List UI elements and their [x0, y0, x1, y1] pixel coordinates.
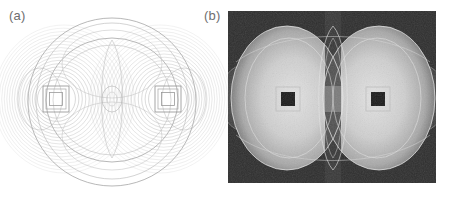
contour-core-ellipse-2: [107, 92, 117, 106]
contour-rings-right: [90, 25, 230, 173]
contour-ring: [138, 70, 194, 128]
contour-ring: [20, 57, 100, 141]
contour-ring: [30, 70, 86, 128]
contour-ring: [90, 25, 230, 173]
contour-ring: [12, 48, 110, 151]
figure-container: (a) (b): [0, 0, 452, 197]
contour-ring: [0, 31, 127, 166]
panel-b-grain: [228, 11, 436, 183]
contour-ring: [114, 48, 212, 151]
panel-b-intensity-map: [220, 11, 446, 183]
contour-ring: [145, 77, 189, 122]
contour-ring: [97, 31, 225, 166]
figure-canvas: [0, 0, 452, 197]
panel-a-label: (a): [9, 9, 26, 22]
contour-core-ellipse: [102, 86, 122, 112]
contour-ring: [32, 73, 82, 124]
contour-ring: [124, 57, 204, 141]
contour-outer-circle-2: [36, 23, 188, 179]
panel-b-label: (b): [204, 9, 221, 22]
contour-ring: [142, 73, 192, 124]
contour-inner-ellipse-2: [53, 45, 171, 155]
contour-ring: [35, 77, 79, 122]
panel-a-contour-plot: [0, 18, 230, 186]
